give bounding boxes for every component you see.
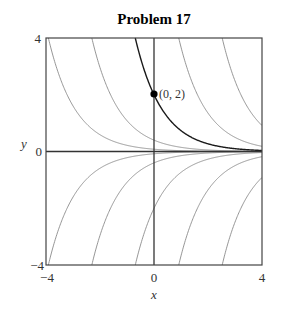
solution-curve	[92, 152, 262, 265]
x-axis-label: x	[150, 287, 157, 302]
y-tick-top: 4	[35, 31, 42, 46]
solution-curve	[222, 38, 262, 126]
x-tick-zero: 0	[151, 270, 158, 285]
point-label: (0, 2)	[159, 87, 185, 101]
solution-curve	[179, 157, 262, 265]
chart-title: Problem 17	[117, 11, 191, 27]
y-axis-label: y	[19, 136, 27, 151]
x-tick-left: −4	[40, 270, 54, 285]
chart: Problem 17 (0, 2) 4 0 −4 −4 0 4 x y	[0, 0, 282, 312]
point-marker	[150, 90, 157, 97]
y-tick-zero: 0	[36, 144, 43, 159]
x-tick-right: 4	[259, 270, 266, 285]
solution-curve	[179, 38, 262, 146]
solution-curve	[222, 177, 262, 265]
